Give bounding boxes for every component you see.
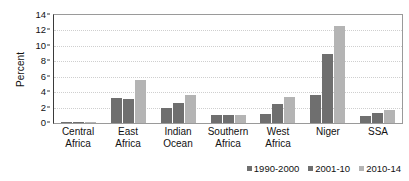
bar-group	[303, 15, 353, 123]
bar	[211, 115, 222, 123]
y-axis-tick-label: 12	[35, 24, 46, 35]
y-axis-title: Percent	[14, 14, 28, 124]
bar	[284, 97, 295, 123]
legend-item[interactable]: 1990-2000	[247, 163, 299, 174]
bar	[185, 95, 196, 123]
y-axis-tick-mark	[47, 29, 50, 30]
x-axis-tick-label: IndianOcean	[153, 126, 203, 149]
legend-swatch-icon	[359, 166, 364, 171]
y-axis-tick-mark	[47, 60, 50, 61]
bar	[173, 103, 184, 123]
x-axis-tick-label-line: Africa	[203, 138, 253, 150]
y-axis-tick-label: 0	[41, 117, 46, 128]
y-axis-tick-mark	[47, 44, 50, 45]
x-axis-tick-label-line: Ocean	[153, 138, 203, 150]
bar	[111, 98, 122, 123]
x-axis-tick-label-line: Africa	[103, 138, 153, 150]
bar-chart-figure: Percent 02468101214 CentralAfricaEastAfr…	[0, 0, 409, 181]
plot-area	[53, 14, 403, 124]
x-axis-tick-label: Niger	[303, 126, 353, 149]
x-axis-tick-label: SSA	[353, 126, 403, 149]
x-axis-tick-label: SouthernAfrica	[203, 126, 253, 149]
bar	[310, 95, 321, 123]
legend-swatch-icon	[247, 166, 252, 171]
x-axis-tick-label: CentralAfrica	[53, 126, 103, 149]
bar	[360, 116, 371, 123]
bar-group	[104, 15, 154, 123]
y-axis-tick-label: 4	[41, 86, 46, 97]
x-axis-tick-labels: CentralAfricaEastAfricaIndianOceanSouthe…	[53, 126, 403, 149]
bar-group	[352, 15, 402, 123]
legend-label: 1990-2000	[254, 163, 299, 174]
x-axis-tick-label: EastAfrica	[103, 126, 153, 149]
bar	[161, 108, 172, 123]
chart-legend: 1990-20002001-102010-14	[247, 163, 401, 174]
x-axis-tick-label-line: Africa	[53, 138, 103, 150]
legend-item[interactable]: 2010-14	[359, 163, 401, 174]
x-axis-tick-label-line: Niger	[303, 126, 353, 138]
bar	[384, 110, 395, 123]
bar	[135, 80, 146, 123]
bar	[272, 104, 283, 123]
x-axis-tick-label-line: Central	[53, 126, 103, 138]
legend-label: 2001-10	[315, 163, 350, 174]
bar	[61, 122, 72, 123]
bar	[85, 122, 96, 123]
bar-groups	[54, 15, 402, 123]
x-axis-tick-label-line: West	[253, 126, 303, 138]
x-axis-tick-label: WestAfrica	[253, 126, 303, 149]
y-axis-tick-mark	[47, 122, 50, 123]
y-axis-tick-mark	[47, 14, 50, 15]
legend-item[interactable]: 2001-10	[308, 163, 350, 174]
bar	[235, 115, 246, 123]
legend-label: 2010-14	[366, 163, 401, 174]
x-axis-tick-label-line: Southern	[203, 126, 253, 138]
bar	[322, 54, 333, 123]
y-axis-tick-mark	[47, 91, 50, 92]
legend-swatch-icon	[308, 166, 313, 171]
y-axis-title-text: Percent	[16, 51, 27, 86]
y-axis-tick-label: 10	[35, 39, 46, 50]
x-axis-tick-label-line: East	[103, 126, 153, 138]
y-axis-tick-label: 14	[35, 9, 46, 20]
y-axis-tick-label: 6	[41, 70, 46, 81]
bar-group	[203, 15, 253, 123]
bar-group	[253, 15, 303, 123]
y-axis-tick-mark	[47, 106, 50, 107]
bar	[123, 99, 134, 123]
y-axis-tick-mark	[47, 75, 50, 76]
bar	[334, 26, 345, 123]
x-axis-tick-label-line: Africa	[253, 138, 303, 150]
y-axis-tick-labels: 02468101214	[28, 8, 50, 130]
bar-group	[153, 15, 203, 123]
bar	[223, 115, 234, 123]
bar	[372, 113, 383, 123]
bar	[73, 122, 84, 123]
x-axis-tick-label-line: Indian	[153, 126, 203, 138]
bar	[260, 114, 271, 123]
x-axis-tick-label-line: SSA	[353, 126, 403, 138]
bar-group	[54, 15, 104, 123]
y-axis-tick-label: 2	[41, 101, 46, 112]
y-axis-tick-label: 8	[41, 55, 46, 66]
